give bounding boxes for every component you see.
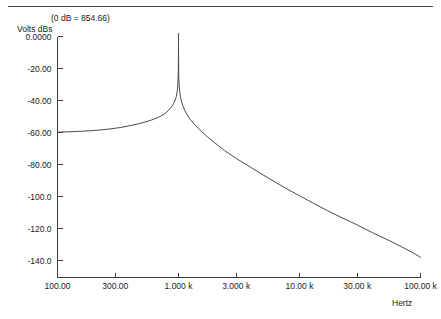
y-tick-label: -40.00 — [27, 96, 51, 106]
x-axis-ticks: 100.00300.001.000 k3.000 k10.00 k30.00 k… — [45, 273, 438, 291]
x-tick-label: 100.00 — [45, 281, 71, 291]
frequency-response-plot: 0.0000-20.00-40.00-60.00-80.00-100.0-120… — [0, 0, 441, 319]
y-tick-label: -100.0 — [27, 192, 51, 202]
y-tick-label: -60.00 — [27, 128, 51, 138]
chart-page: (0 dB = 854.66) Volts dBs Hertz 0.0000-2… — [0, 0, 441, 319]
y-tick-label: -120.0 — [27, 224, 51, 234]
x-tick-label: 3.000 k — [222, 281, 251, 291]
y-tick-label: 0.0000 — [26, 32, 52, 42]
x-tick-label: 30.00 k — [343, 281, 372, 291]
y-tick-label: -80.00 — [27, 160, 51, 170]
response-curve — [58, 33, 421, 257]
y-tick-label: -140.0 — [27, 256, 51, 266]
x-tick-label: 100.00 k — [404, 281, 437, 291]
x-tick-label: 10.00 k — [286, 281, 315, 291]
y-axis-ticks: 0.0000-20.00-40.00-60.00-80.00-100.0-120… — [26, 32, 63, 266]
y-tick-label: -20.00 — [27, 64, 51, 74]
x-tick-label: 300.00 — [102, 281, 128, 291]
x-tick-label: 1.000 k — [165, 281, 194, 291]
